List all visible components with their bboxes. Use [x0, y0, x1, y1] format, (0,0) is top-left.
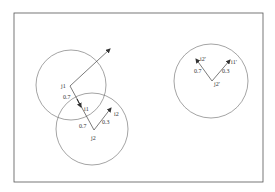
- j2-circle: [56, 93, 128, 165]
- label-w-j2-i2: 0.3: [102, 119, 110, 125]
- label-i1prime: i1': [231, 59, 237, 65]
- label-j1: j1: [60, 83, 66, 89]
- label-i2: i2: [114, 111, 119, 117]
- j1-long-arrow: [70, 49, 110, 86]
- frame-border: [14, 13, 263, 182]
- label-i2prime: i2': [200, 56, 206, 62]
- i1-arrow: [77, 99, 81, 107]
- label-i1: i1: [84, 106, 89, 112]
- label-w-j2p-i1p: 0.3: [222, 68, 230, 74]
- label-w-j1-i1: 0.7: [63, 94, 71, 100]
- label-w-j2p-i2p: 0.7: [194, 68, 202, 74]
- diagram-canvas: j1 0.7 i1 0.7 0.3 i2 j2 i2' i1' 0.7 0.3 …: [0, 0, 275, 192]
- j2prime-circle: [174, 44, 248, 118]
- label-w-j2-i1: 0.7: [79, 123, 87, 129]
- label-j2: j2: [90, 135, 96, 141]
- label-j2prime: j2': [213, 81, 220, 87]
